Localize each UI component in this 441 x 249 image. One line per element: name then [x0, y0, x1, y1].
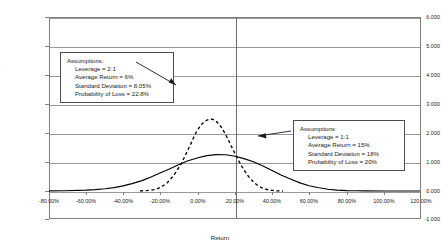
x-tick-label: 40.00%: [252, 198, 292, 204]
y-tick-label: 3.000: [396, 101, 440, 107]
x-tick-mark: [384, 192, 385, 195]
y-tick-label: 5.000: [396, 43, 440, 49]
annotation-line: Leverage = 1:1: [300, 133, 399, 141]
annotation-title: Assumptions:: [67, 57, 168, 65]
x-tick-label: 20.00%: [215, 198, 255, 204]
x-axis-title: Return: [0, 234, 440, 241]
y-tick-mark: [45, 17, 49, 18]
y-tick-mark: [45, 46, 49, 47]
x-tick-mark: [123, 192, 124, 195]
x-tick-label: 100.00%: [364, 198, 404, 204]
y-tick-mark: [45, 162, 49, 163]
x-tick-mark: [347, 192, 348, 195]
y-tick-mark: [45, 191, 49, 192]
x-tick-mark: [235, 192, 236, 195]
y-tick-label: 4.000: [396, 72, 440, 78]
x-tick-label: -20.00%: [140, 198, 180, 204]
y-tick-label: 6.000: [396, 14, 440, 20]
annotation-line: Standard Deviation = 8.05%: [67, 82, 168, 90]
x-tick-mark: [160, 192, 161, 195]
x-tick-label: -40.00%: [103, 198, 143, 204]
x-tick-mark: [198, 192, 199, 195]
annotation-line: Average Return = 6%: [67, 73, 168, 81]
annotation-line: Standard Deviation = 18%: [300, 150, 399, 158]
x-tick-mark: [309, 192, 310, 195]
annotation-box-leveraged: Assumptions: Leverage = 2:1 Average Retu…: [60, 52, 174, 103]
gridline: [50, 47, 420, 48]
annotation-title: Assumptions:: [300, 125, 399, 133]
annotation-box-unleveraged: Assumptions: Leverage = 1:1 Average Retu…: [293, 120, 405, 171]
y-tick-mark: [45, 219, 49, 220]
y-tick-mark: [45, 75, 49, 76]
gridline: [50, 105, 420, 106]
plot-area: [49, 17, 421, 219]
zero-axis-vline: [236, 18, 237, 218]
gridline: [50, 18, 420, 19]
x-tick-label: -80.00%: [29, 198, 69, 204]
annotation-line: Probability of Loss = 20%: [300, 158, 399, 166]
x-tick-label: -60.00%: [66, 198, 106, 204]
x-tick-mark: [272, 192, 273, 195]
x-tick-label: 120.00%: [401, 198, 441, 204]
y-tick-mark: [45, 104, 49, 105]
x-tick-label: 0.00%: [178, 198, 218, 204]
y-tick-label: -1.000: [396, 216, 440, 222]
annotation-line: Probability of Loss = 22.8%: [67, 90, 168, 98]
x-tick-mark: [86, 192, 87, 195]
annotation-line: Average Return = 15%: [300, 141, 399, 149]
annotation-line: Leverage = 2:1: [67, 65, 168, 73]
y-tick-label: 0.000: [396, 188, 440, 194]
x-tick-label: 80.00%: [327, 198, 367, 204]
y-tick-mark: [45, 133, 49, 134]
x-tick-label: 60.00%: [289, 198, 329, 204]
